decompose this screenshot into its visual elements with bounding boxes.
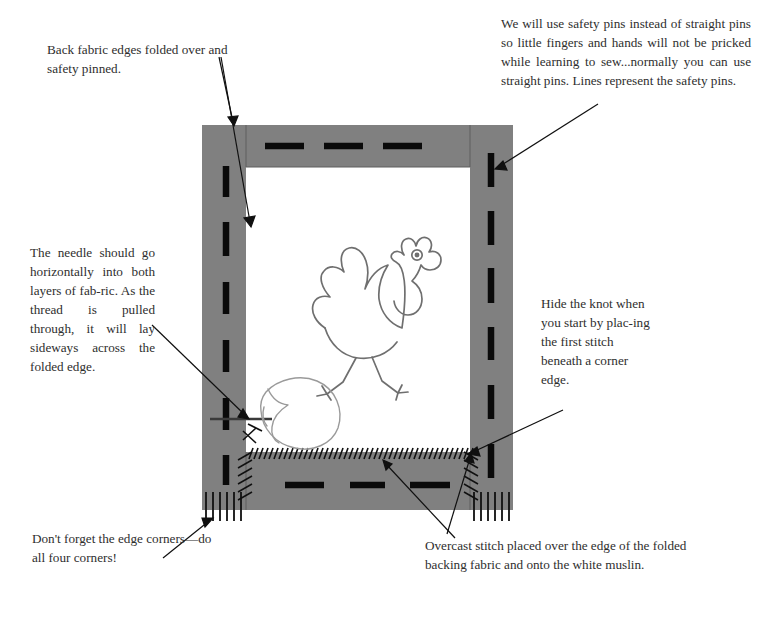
diagram-root: Back fabric edges folded over and safety… [0, 0, 766, 620]
annotation-needle: The needle should go horizontally into b… [30, 243, 155, 376]
annotation-hide-knot: Hide the knot when you start by plac-ing… [541, 294, 651, 389]
muslin-window [246, 167, 470, 452]
annotation-back-fabric: Back fabric edges folded over and safety… [47, 40, 237, 78]
annotation-safety-pins: We will use safety pins instead of strai… [501, 14, 751, 90]
annotation-corners: Don't forget the edge corners—do all fou… [32, 529, 212, 567]
annotation-overcast: Overcast stitch placed over the edge of … [425, 536, 705, 574]
